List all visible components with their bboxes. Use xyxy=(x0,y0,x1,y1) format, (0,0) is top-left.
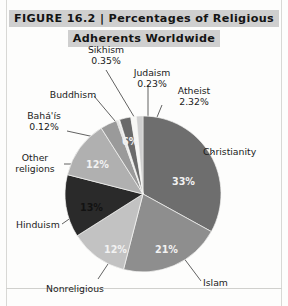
callout-bahais-label: Bahá'ís xyxy=(14,110,74,121)
callout-atheist-label: Atheist xyxy=(163,85,225,96)
callout-nonreligious-label: Nonreligious xyxy=(46,283,104,294)
callout-hinduism: Hinduism xyxy=(16,219,60,230)
slice-pct-hinduism: 13% xyxy=(80,202,103,213)
callout-atheist: Atheist 2.32% xyxy=(163,85,225,107)
callout-christianity: Christianity xyxy=(203,146,256,157)
slice-pct-other-religions: 12% xyxy=(86,159,109,170)
callout-judaism-label: Judaism xyxy=(114,67,190,78)
callout-sikhism: Sikhism 0.35% xyxy=(60,44,152,66)
callout-sikhism-label: Sikhism xyxy=(60,44,152,55)
pie-chart xyxy=(63,114,223,274)
callout-sikhism-pct: 0.35% xyxy=(60,55,152,66)
callout-nonreligious: Nonreligious xyxy=(46,283,104,294)
callout-other-religions-line1: Other xyxy=(6,152,64,163)
slice-pct-christianity: 33% xyxy=(172,176,195,187)
callout-islam: Islam xyxy=(203,277,228,288)
callout-other-religions: Other religions xyxy=(6,152,64,174)
slice-pct-nonreligious: 12% xyxy=(104,244,127,255)
callout-other-religions-line2: religions xyxy=(6,163,64,174)
callout-bahais-pct: 0.12% xyxy=(14,121,74,132)
callout-islam-label: Islam xyxy=(203,277,228,288)
callout-buddhism: Buddhism xyxy=(38,89,108,100)
callout-bahais: Bahá'ís 0.12% xyxy=(14,110,74,132)
callout-hinduism-label: Hinduism xyxy=(16,219,60,230)
callout-christianity-label: Christianity xyxy=(203,146,256,157)
callout-atheist-pct: 2.32% xyxy=(163,96,225,107)
callout-buddhism-label: Buddhism xyxy=(38,89,108,100)
figure-container: FIGURE 16.2 | Percentages of Religious A… xyxy=(0,0,288,306)
slice-pct-islam: 21% xyxy=(155,244,178,255)
slice-pct-buddhism: 6% xyxy=(122,136,138,147)
